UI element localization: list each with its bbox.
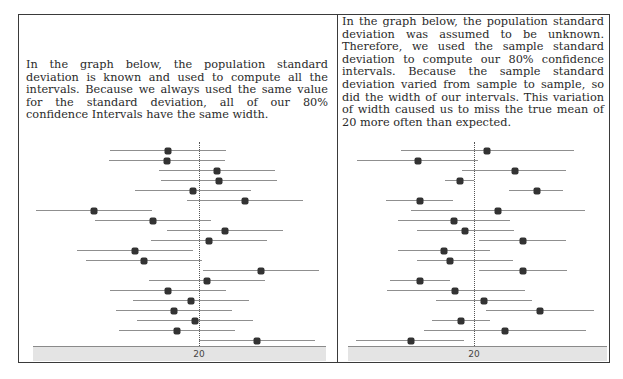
sample-mean-marker [441, 247, 448, 254]
x-axis-tick-label: 20 [468, 349, 479, 359]
sample-mean-marker [171, 307, 178, 314]
sample-mean-marker [192, 317, 199, 324]
confidence-interval [417, 260, 513, 261]
sample-mean-marker [458, 317, 465, 324]
sample-mean-marker [495, 207, 502, 214]
left-panel: In the graph below, the population stand… [19, 14, 337, 363]
left-caption: In the graph below, the population stand… [26, 59, 328, 122]
sample-mean-marker [417, 197, 424, 204]
sample-mean-marker [481, 297, 488, 304]
sample-mean-marker [206, 237, 213, 244]
sample-mean-marker [222, 227, 229, 234]
sample-mean-marker [534, 187, 541, 194]
sample-mean-marker [190, 187, 197, 194]
sample-mean-marker [91, 207, 98, 214]
sample-mean-marker [451, 217, 458, 224]
sample-mean-marker [214, 167, 221, 174]
sample-mean-marker [150, 217, 157, 224]
sample-mean-marker [484, 147, 491, 154]
x-axis-tick-label: 20 [193, 349, 204, 359]
reference-line-20 [199, 142, 200, 346]
sample-mean-marker [452, 287, 459, 294]
sample-mean-marker [132, 247, 139, 254]
sample-mean-marker [141, 257, 148, 264]
sample-mean-marker [164, 157, 171, 164]
x-axis-band [33, 346, 326, 361]
sample-mean-marker [417, 277, 424, 284]
right-caption: In the graph below, the population stand… [342, 16, 604, 129]
sample-mean-marker [520, 267, 527, 274]
sample-mean-marker [216, 177, 223, 184]
sample-mean-marker [520, 237, 527, 244]
sample-mean-marker [174, 327, 181, 334]
sample-mean-marker [165, 147, 172, 154]
sample-mean-marker [447, 257, 454, 264]
sample-mean-marker [502, 327, 509, 334]
sample-mean-marker [512, 167, 519, 174]
sample-mean-marker [165, 287, 172, 294]
reference-line-20 [474, 142, 475, 346]
sample-mean-marker [408, 337, 415, 344]
right-panel: In the graph below, the population stand… [338, 14, 609, 363]
sample-mean-marker [188, 297, 195, 304]
sample-mean-marker [258, 267, 265, 274]
sample-mean-marker [242, 197, 249, 204]
sample-mean-marker [415, 157, 422, 164]
sample-mean-marker [204, 277, 211, 284]
sample-mean-marker [537, 307, 544, 314]
sample-mean-marker [457, 177, 464, 184]
sample-mean-marker [254, 337, 261, 344]
sample-mean-marker [462, 227, 469, 234]
